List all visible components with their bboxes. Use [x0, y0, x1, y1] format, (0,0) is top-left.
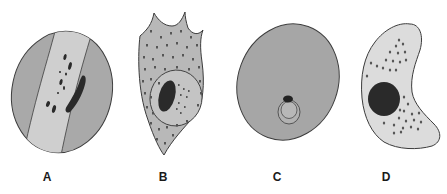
cell-diagram — [0, 0, 447, 194]
cell-d — [362, 24, 440, 149]
panel-label-a: A — [43, 170, 52, 184]
cell-c — [221, 9, 355, 154]
cell-a — [0, 20, 123, 170]
panel-label-d: D — [382, 170, 391, 184]
cell-c-ring-inner — [281, 102, 297, 119]
panel-label-c: C — [273, 170, 282, 184]
cell-b — [139, 12, 207, 155]
cell-c-spot — [283, 96, 293, 103]
panel-label-b: B — [159, 170, 168, 184]
cell-d-nucleus — [368, 82, 400, 116]
